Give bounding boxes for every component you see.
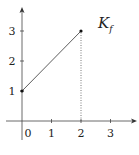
axes: [6, 7, 137, 140]
ticks: 0123123: [9, 25, 115, 140]
y-tick-label: 3: [9, 25, 16, 38]
y-tick-label: 2: [9, 55, 16, 68]
x-tick-label: 3: [107, 127, 114, 140]
chart: 0123123 Kf: [0, 0, 139, 155]
data-point: [20, 89, 23, 92]
x-tick-label: 2: [78, 127, 85, 140]
data-point: [79, 29, 82, 32]
y-tick-label: 1: [9, 85, 16, 98]
series-label: Kf: [97, 14, 114, 34]
x-tick-label: 1: [48, 127, 55, 140]
series-label-main: K: [97, 14, 110, 32]
series-label-sub: f: [108, 24, 114, 34]
series-line: [22, 31, 81, 91]
series: [20, 29, 82, 92]
x-tick-label: 0: [25, 127, 32, 140]
